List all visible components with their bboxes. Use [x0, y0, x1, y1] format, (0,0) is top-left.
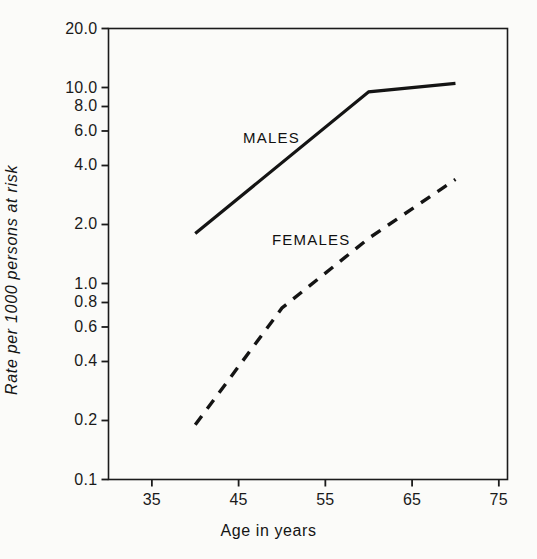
y-axis-title: Rate per 1000 persons at risk — [3, 164, 21, 394]
figure-chart: 20.010.08.06.04.02.01.00.80.60.40.20.1 3… — [0, 0, 537, 559]
x-tick-label: 45 — [229, 491, 247, 509]
y-tick-label: 0.8 — [74, 293, 97, 311]
y-tick-label: 1.0 — [74, 275, 97, 293]
y-tick-label: 20.0 — [65, 20, 97, 38]
series-line-males — [195, 83, 455, 233]
data-series-group — [195, 83, 455, 425]
y-tick-label: 0.6 — [74, 318, 97, 336]
y-axis-ticks — [102, 29, 109, 480]
y-tick-label: 8.0 — [74, 97, 97, 115]
x-tick-label: 55 — [316, 491, 334, 509]
y-tick-label: 0.2 — [74, 411, 97, 429]
plot-frame — [109, 29, 508, 480]
x-tick-label: 35 — [143, 491, 161, 509]
y-tick-label: 10.0 — [65, 79, 97, 97]
y-tick-label: 0.1 — [74, 471, 97, 489]
x-tick-label: 75 — [490, 491, 508, 509]
y-tick-label: 4.0 — [74, 156, 97, 174]
x-axis-title: Age in years — [220, 522, 316, 540]
y-tick-label: 2.0 — [74, 215, 97, 233]
series-label-females: FEMALES — [272, 231, 350, 248]
y-tick-label: 0.4 — [74, 352, 97, 370]
series-label-males: MALES — [243, 129, 300, 146]
y-tick-label: 6.0 — [74, 122, 97, 140]
x-axis-ticks — [152, 480, 499, 487]
x-tick-label: 65 — [403, 491, 421, 509]
series-line-females — [195, 179, 455, 425]
